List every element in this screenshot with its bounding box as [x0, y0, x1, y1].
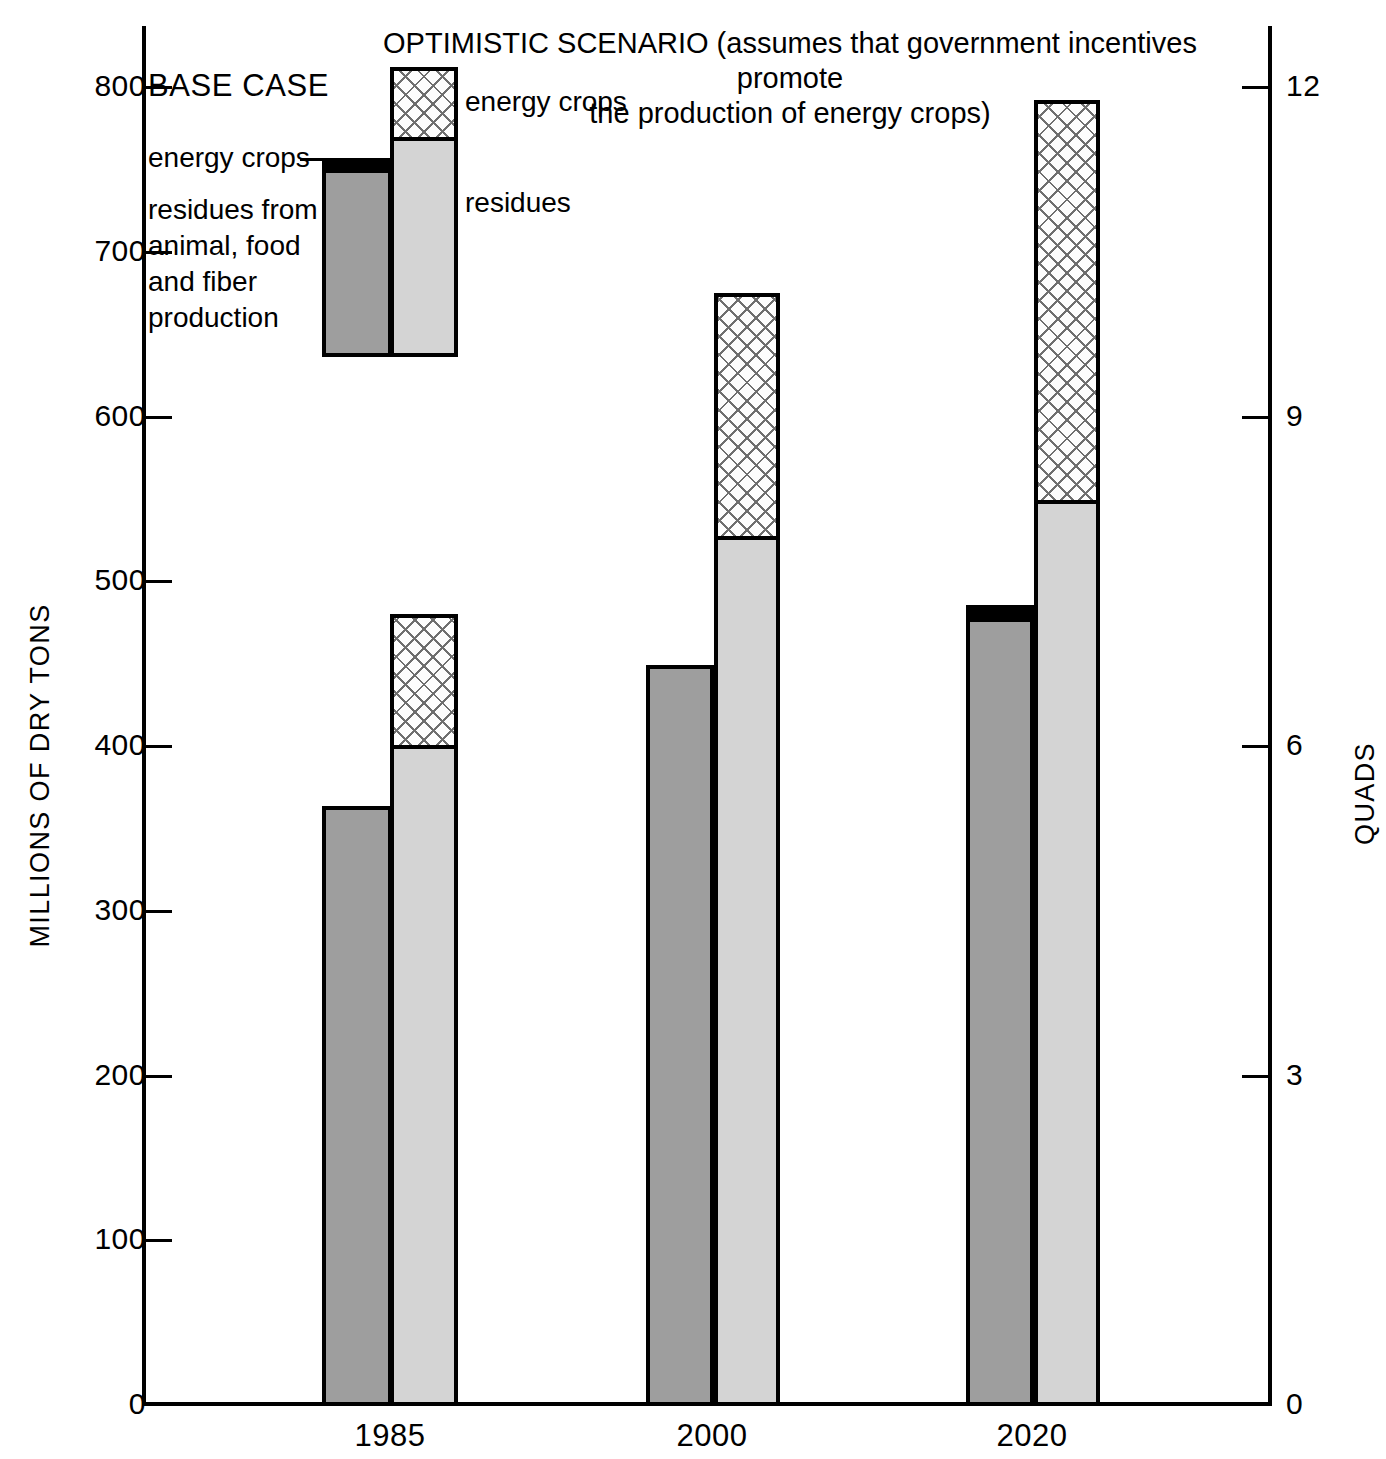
- bar-1985-base-case[interactable]: [322, 806, 392, 1406]
- y-axis-left-tick-400: [146, 745, 172, 748]
- annotation-residues-optimistic: residues: [465, 185, 571, 221]
- y-axis-left-tick-100: [146, 1239, 172, 1242]
- y-axis-left-label-200: 200: [94, 1060, 146, 1090]
- y-axis-left-label-300: 300: [94, 895, 146, 925]
- y-axis-right-tick-6: [1242, 745, 1268, 748]
- y-axis-left-tick-300: [146, 910, 172, 913]
- legend-sample-energy-crops-optimistic: [394, 71, 454, 137]
- y-axis-right-title: QUADS: [1350, 684, 1381, 904]
- segment-residues-2020-base: [970, 609, 1030, 1402]
- y-axis-left-line: [142, 26, 146, 1406]
- chart-canvas: OPTIMISTIC SCENARIO (assumes that govern…: [0, 0, 1386, 1459]
- bar-2020-optimistic[interactable]: [1034, 100, 1100, 1406]
- y-axis-left-label-500: 500: [94, 565, 146, 595]
- y-axis-left-label-600: 600: [94, 401, 146, 431]
- bar-1985-optimistic[interactable]: [390, 614, 458, 1406]
- legend-sample-residues-optimistic: [394, 141, 454, 353]
- annotation-energy-crops-optimistic: energy crops: [465, 84, 627, 120]
- x-axis-label-2020: 2020: [952, 1418, 1112, 1454]
- y-axis-right-label-9: 9: [1286, 401, 1303, 431]
- leader-line-energy-crops: [300, 158, 322, 161]
- y-axis-right-tick-12: [1242, 86, 1268, 89]
- legend-sample-energy-crops-base: [326, 162, 388, 173]
- y-axis-left-title: MILLIONS OF DRY TONS: [25, 596, 56, 956]
- segment-energy-crops-1985-optimistic: [394, 618, 454, 745]
- segment-residues-2020-optimistic: [1038, 504, 1096, 1402]
- x-axis-label-1985: 1985: [310, 1418, 470, 1454]
- y-axis-right-label-0: 0: [1286, 1389, 1303, 1419]
- y-axis-left-label-800: 800: [94, 71, 146, 101]
- y-axis-right-label-3: 3: [1286, 1060, 1303, 1090]
- y-axis-left-label-0: 0: [129, 1389, 146, 1419]
- segment-residues-2000-optimistic: [718, 540, 776, 1402]
- y-axis-left-label-700: 700: [94, 236, 146, 266]
- segment-residues-2000-base: [650, 669, 710, 1402]
- y-axis-right-tick-3: [1242, 1075, 1268, 1078]
- legend-sample-bar-base-case: [322, 158, 392, 357]
- y-axis-left-tick-500: [146, 580, 172, 583]
- y-axis-left-tick-600: [146, 416, 172, 419]
- segment-residues-1985-optimistic: [394, 749, 454, 1402]
- y-axis-right-tick-9: [1242, 416, 1268, 419]
- segment-energy-crops-2000-optimistic: [718, 297, 776, 536]
- legend-sample-bar-optimistic: [390, 67, 458, 357]
- legend-sample-residues-base: [326, 162, 388, 353]
- y-axis-right-label-12: 12: [1286, 71, 1320, 101]
- y-axis-right-label-6: 6: [1286, 730, 1303, 760]
- annotation-energy-crops-base: energy crops: [148, 140, 310, 176]
- annotation-residues-base: residues from animal, food and fiber pro…: [148, 192, 318, 336]
- annotation-base-case: BASE CASE: [148, 68, 329, 104]
- bar-2020-base-case[interactable]: [966, 605, 1034, 1406]
- bar-2000-base-case[interactable]: [646, 665, 714, 1406]
- y-axis-left-label-100: 100: [94, 1224, 146, 1254]
- y-axis-left-label-400: 400: [94, 730, 146, 760]
- y-axis-right-line: [1268, 26, 1272, 1406]
- segment-energy-crops-2020-optimistic: [1038, 104, 1096, 500]
- x-axis-label-2000: 2000: [632, 1418, 792, 1454]
- y-axis-left-tick-200: [146, 1075, 172, 1078]
- segment-residues-1985-base: [326, 810, 388, 1402]
- segment-energy-crops-2020-base: [970, 609, 1030, 622]
- bar-2000-optimistic[interactable]: [714, 293, 780, 1406]
